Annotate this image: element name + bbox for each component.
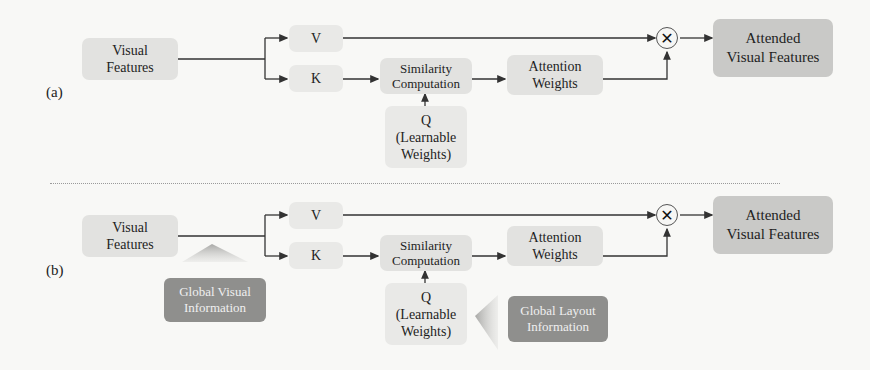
panel-label-b: (b)	[46, 262, 64, 279]
k-box: K	[289, 242, 343, 269]
attended-visual-features-box: Attended Visual Features	[713, 19, 833, 77]
global-visual-information-box: Global Visual Information	[164, 278, 266, 322]
multiply-icon: ✕	[656, 204, 678, 226]
attended-visual-features-box: Attended Visual Features	[713, 196, 833, 254]
visual-features-box: Visual Features	[82, 38, 178, 80]
q-learnable-weights-box: Q (Learnable Weights)	[385, 106, 467, 168]
multiply-icon: ✕	[656, 27, 678, 49]
up-arrow-icon	[182, 244, 248, 262]
similarity-computation-box: Similarity Computation	[380, 235, 472, 271]
visual-features-box: Visual Features	[82, 215, 178, 257]
similarity-computation-box: Similarity Computation	[380, 58, 472, 94]
left-arrow-icon	[475, 295, 498, 350]
k-box: K	[289, 65, 343, 92]
attention-weights-box: Attention Weights	[507, 226, 603, 266]
v-box: V	[289, 25, 343, 52]
panel-divider	[50, 183, 780, 184]
v-box: V	[289, 202, 343, 229]
q-learnable-weights-box: Q (Learnable Weights)	[385, 283, 467, 345]
panel-label-a: (a)	[46, 84, 63, 101]
attention-weights-box: Attention Weights	[507, 55, 603, 95]
global-layout-information-box: Global Layout Information	[508, 296, 608, 342]
